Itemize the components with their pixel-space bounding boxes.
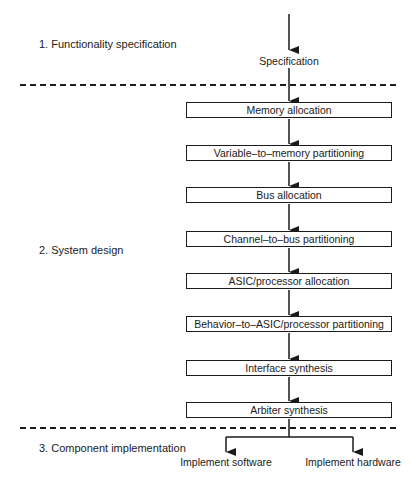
stage-label-component-implementation: 3. Component implementation (39, 442, 186, 454)
step-memory-allocation: Memory allocation (186, 102, 392, 118)
step-interface-synthesis: Interface synthesis (186, 360, 392, 376)
step-asic-processor-allocation: ASIC/processor allocation (186, 273, 392, 289)
step-arbiter-synthesis: Arbiter synthesis (186, 402, 392, 418)
step-behavior-to-asic-processor-partitioning: Behavior–to–ASIC/processor partitioning (186, 316, 392, 332)
step-bus-allocation: Bus allocation (186, 187, 392, 203)
output-implement-software: Implement software (176, 456, 276, 468)
stage-label-functionality-specification: 1. Functionality specification (39, 38, 177, 50)
output-implement-hardware: Implement hardware (302, 456, 404, 468)
step-channel-to-bus-partitioning: Channel–to–bus partitioning (186, 231, 392, 247)
specification-label: Specification (249, 55, 329, 67)
stage-label-system-design: 2. System design (39, 244, 123, 256)
step-variable-to-memory-partitioning: Variable–to–memory partitioning (186, 145, 392, 161)
